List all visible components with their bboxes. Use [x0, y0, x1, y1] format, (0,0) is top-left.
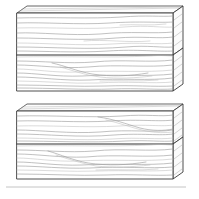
timber-stacks-figure: Two stacks of squared timber beams: [0, 0, 199, 199]
upper-top-beam-end-face: [173, 6, 183, 55]
upper-stack: [17, 6, 183, 91]
lower-bottom-beam-end-face: [173, 137, 183, 179]
drawing-canvas: Two stacks of squared timber beams: [0, 0, 199, 199]
lower-stack: [17, 104, 183, 179]
